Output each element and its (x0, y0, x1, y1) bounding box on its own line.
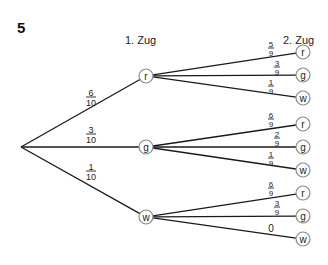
fraction-numerator: 1 (269, 78, 274, 87)
fraction-denominator: 9 (275, 68, 280, 77)
probability-green-white: 19 (268, 150, 274, 168)
fraction-numerator: 5 (269, 40, 274, 49)
fraction-numerator: 1 (88, 162, 93, 172)
probability-first-green: 310 (86, 125, 96, 145)
fraction-denominator: 9 (269, 49, 274, 58)
probability-value: 0 (268, 223, 274, 234)
fraction-denominator: 9 (269, 189, 274, 198)
fraction-denominator: 9 (275, 139, 280, 148)
fraction-numerator: 3 (275, 59, 280, 68)
edge-root-white (21, 147, 140, 214)
probability-tree-diagram: 5 1. Zug 2. Zug 610310110593919692919693… (0, 0, 328, 265)
task-number: 5 (17, 19, 25, 36)
node-second-red-red: r (296, 45, 310, 59)
edge-red-white (153, 77, 296, 97)
heading-second-draw: 2. Zug (283, 34, 314, 46)
fraction-denominator: 9 (275, 208, 280, 217)
heading-first-draw: 1. Zug (125, 34, 156, 46)
probability-white-red: 69 (268, 180, 274, 198)
node-second-green-red: r (296, 117, 310, 131)
branch-probabilities: 61031011059391969291969390 (86, 40, 280, 235)
node-second-white-red: r (296, 186, 310, 200)
node-first-white: w (139, 210, 153, 224)
node-label: w (298, 165, 307, 176)
node-second-green-white: w (296, 163, 310, 177)
node-second-red-green: g (296, 68, 310, 82)
node-second-white-white: w (296, 232, 310, 246)
probability-white-white: 0 (268, 223, 274, 234)
fraction-numerator: 3 (88, 125, 93, 135)
fraction-numerator: 3 (275, 199, 280, 208)
probability-red-green: 39 (274, 59, 280, 77)
node-label: w (298, 93, 307, 104)
fraction-denominator: 10 (86, 98, 96, 108)
node-first-red: r (139, 69, 153, 83)
fraction-numerator: 6 (269, 180, 274, 189)
fraction-numerator: 1 (269, 150, 274, 159)
edge-root-red (21, 79, 140, 147)
tree-edges (21, 53, 296, 238)
probability-red-white: 19 (268, 78, 274, 96)
fraction-denominator: 9 (269, 159, 274, 168)
node-label: g (300, 142, 306, 153)
edge-white-white (153, 218, 296, 238)
node-second-green-green: g (296, 140, 310, 154)
edge-green-white (153, 148, 296, 169)
node-label: g (300, 70, 306, 81)
fraction-denominator: 10 (86, 135, 96, 145)
node-label: g (143, 142, 149, 153)
fraction-denominator: 9 (269, 120, 274, 129)
node-label: w (141, 212, 150, 223)
probability-white-green: 39 (274, 199, 280, 217)
node-label: w (298, 234, 307, 245)
probability-green-red: 69 (268, 111, 274, 129)
node-second-red-white: w (296, 91, 310, 105)
probability-green-green: 29 (274, 130, 280, 148)
node-first-green: g (139, 140, 153, 154)
node-second-white-green: g (296, 209, 310, 223)
fraction-numerator: 2 (275, 130, 280, 139)
fraction-numerator: 6 (88, 88, 93, 98)
fraction-denominator: 10 (86, 172, 96, 182)
fraction-denominator: 9 (269, 87, 274, 96)
probability-first-white: 110 (86, 162, 96, 182)
node-label: g (300, 211, 306, 222)
probability-red-red: 59 (268, 40, 274, 58)
fraction-numerator: 6 (269, 111, 274, 120)
probability-first-red: 610 (86, 88, 96, 108)
